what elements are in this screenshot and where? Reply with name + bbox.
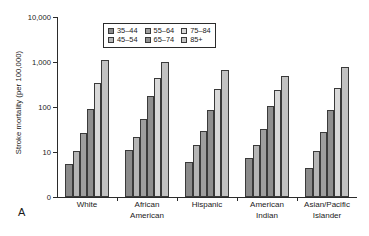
bar — [281, 76, 288, 197]
bar — [214, 89, 221, 197]
legend-swatch-icon — [145, 28, 151, 34]
bar — [207, 110, 214, 197]
bar — [327, 110, 334, 197]
x-axis-label-line: Islander — [291, 211, 363, 222]
y-tick-label: 10 — [43, 148, 51, 157]
bar — [73, 151, 80, 197]
bar — [267, 106, 274, 197]
bar — [147, 96, 154, 197]
bar — [260, 129, 267, 197]
bar — [125, 150, 132, 197]
bar — [193, 145, 200, 197]
legend-swatch-icon — [181, 28, 187, 34]
legend-row-bottom: 45–5465–7485+ — [108, 35, 211, 44]
legend-row-top: 35–4455–6475–84 — [108, 26, 211, 35]
bar — [140, 119, 147, 197]
bar — [274, 90, 281, 197]
legend-label: 35–44 — [117, 26, 138, 35]
x-axis-label-line: Asian/Pacific — [291, 200, 363, 211]
bar — [320, 132, 327, 197]
bar — [161, 62, 168, 197]
bar — [101, 60, 108, 197]
legend-label: 55–64 — [154, 26, 175, 35]
bar — [154, 78, 161, 197]
bar — [94, 83, 101, 197]
legend-swatch-icon — [108, 37, 114, 43]
y-tick-label: 10,000 — [28, 13, 51, 22]
legend-swatch-icon — [108, 28, 114, 34]
legend-swatch-icon — [145, 37, 151, 43]
legend-label: 45–54 — [117, 35, 138, 44]
bar — [221, 70, 228, 197]
bar-group — [237, 17, 297, 197]
bar — [341, 67, 348, 197]
x-axis-label-asian-pacific-islander: Asian/PacificIslander — [291, 200, 363, 221]
x-axis-category-labels: WhiteAfricanAmericanHispanicAmericanIndi… — [57, 200, 357, 234]
bar — [245, 158, 252, 197]
legend-label: 75–84 — [190, 26, 211, 35]
legend-item: 35–44 — [108, 26, 138, 35]
legend-swatch-icon — [181, 37, 187, 43]
panel-letter: A — [18, 206, 25, 218]
legend-label: 85+ — [190, 35, 203, 44]
bar — [313, 151, 320, 197]
y-axis-label: Stroke mortality (per 100,000) — [14, 23, 23, 183]
bar — [65, 164, 72, 197]
legend-item: 55–64 — [145, 26, 175, 35]
y-tick-label: 100 — [38, 103, 51, 112]
bar — [185, 162, 192, 197]
legend-item: 75–84 — [181, 26, 211, 35]
bar — [80, 133, 87, 197]
legend-label: 65–74 — [154, 35, 175, 44]
legend-item: 85+ — [181, 35, 203, 44]
bar — [133, 137, 140, 197]
bar — [305, 168, 312, 197]
bar — [87, 109, 94, 197]
y-tick-mark — [53, 197, 57, 198]
legend: 35–4455–6475–84 45–5465–7485+ — [103, 23, 216, 48]
x-axis-line — [57, 197, 357, 198]
bar — [200, 131, 207, 197]
bar — [253, 145, 260, 197]
bar — [334, 88, 341, 197]
y-tick-label: 1,000 — [32, 58, 51, 67]
stroke-mortality-figure: Stroke mortality (per 100,000) 0101001,0… — [0, 0, 369, 236]
legend-item: 45–54 — [108, 35, 138, 44]
legend-item: 65–74 — [145, 35, 175, 44]
bar-group — [297, 17, 357, 197]
x-axis-label-line: American — [111, 211, 183, 222]
